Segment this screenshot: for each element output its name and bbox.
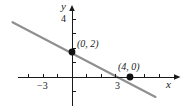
x-axis — [18, 74, 181, 80]
x-tick-label-3: 3 — [115, 81, 120, 91]
y-axis-arrowhead — [69, 5, 75, 11]
y-tick-label-4: 4 — [61, 14, 66, 24]
point-y-intercept — [69, 49, 76, 56]
point-label-x-intercept: (4, 0) — [118, 62, 140, 72]
x-axis-label: x — [166, 79, 171, 90]
coordinate-plane-svg — [0, 0, 183, 111]
point-x-intercept — [127, 74, 134, 81]
x-axis-arrowhead — [174, 74, 181, 80]
y-axis-label: y — [61, 1, 66, 12]
x-tick-label-negative-3: −3 — [37, 81, 48, 91]
x-axis-ticks — [29, 74, 160, 78]
line-graph — [13, 22, 156, 97]
point-label-y-intercept: (0, 2) — [77, 39, 99, 49]
linear-function-line — [13, 22, 156, 97]
graph-figure: y x 4 3 −3 (0, 2) (4, 0) — [0, 0, 183, 111]
